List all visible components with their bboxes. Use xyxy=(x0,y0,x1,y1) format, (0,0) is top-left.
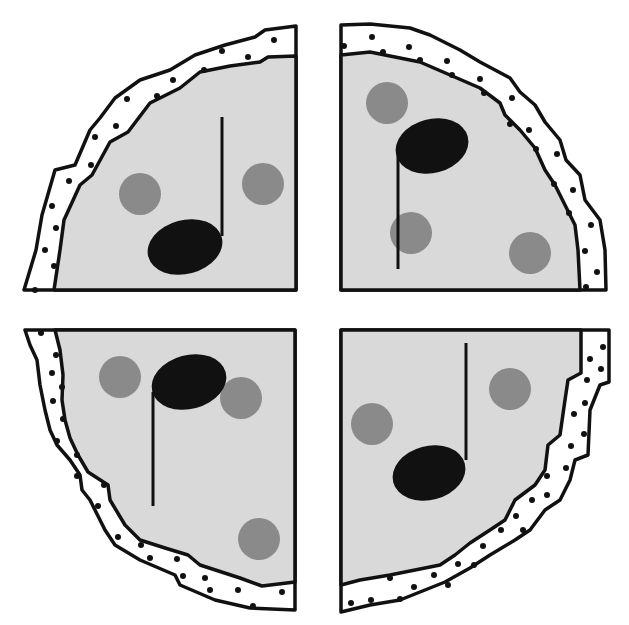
pizza-music-illustration xyxy=(0,0,629,625)
background xyxy=(0,0,629,625)
